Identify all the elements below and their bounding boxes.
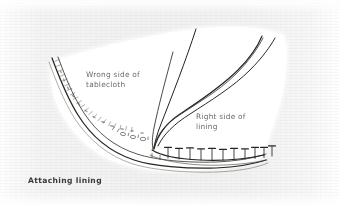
tablecloth-panel xyxy=(51,27,286,171)
label-right-side-of-lining: Right side of lining xyxy=(196,112,246,133)
pin-icon xyxy=(269,146,276,156)
figure-illustration: Wrong side of tablecloth Right side of l… xyxy=(0,0,340,211)
figure-caption: Attaching lining xyxy=(28,176,102,185)
label-wrong-side-of-tablecloth: Wrong side of tablecloth xyxy=(86,70,140,91)
bottom-fade xyxy=(0,191,340,211)
